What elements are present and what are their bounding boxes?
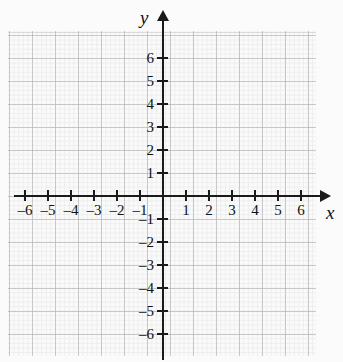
y-axis-tick-label: 4 <box>128 97 154 112</box>
y-axis-tick <box>157 287 168 289</box>
x-axis-tick <box>116 190 118 201</box>
x-axis-tick <box>300 190 302 201</box>
y-axis-tick <box>157 126 168 128</box>
x-axis-tick <box>208 190 210 201</box>
x-axis-tick <box>185 190 187 201</box>
y-axis-tick <box>157 310 168 312</box>
x-axis-tick-label: –5 <box>36 203 60 218</box>
x-axis-tick-label: –6 <box>13 203 37 218</box>
y-axis-tick <box>157 264 168 266</box>
coordinate-plane-figure: –6–5–4–3–2–1123456 654321–1–2–3–4–5–6 x … <box>0 0 343 362</box>
y-axis-tick-label: –6 <box>128 327 154 342</box>
x-axis-tick <box>70 190 72 201</box>
x-axis-tick <box>139 190 141 201</box>
x-axis-tick-label: –2 <box>105 203 129 218</box>
y-axis-tick-label: 1 <box>128 166 154 181</box>
x-axis-tick-label: 5 <box>266 203 290 218</box>
x-axis-tick <box>277 190 279 201</box>
y-axis-tick-label: 2 <box>128 143 154 158</box>
x-axis-tick-label: 2 <box>197 203 221 218</box>
y-axis-tick-label: –4 <box>128 281 154 296</box>
y-axis-tick <box>157 149 168 151</box>
y-axis-tick-label: 3 <box>128 120 154 135</box>
x-axis-tick <box>47 190 49 201</box>
x-axis-label: x <box>326 203 334 222</box>
x-axis-tick-label: –3 <box>82 203 106 218</box>
y-axis-tick <box>157 172 168 174</box>
y-axis-tick-label: 6 <box>128 51 154 66</box>
x-axis-tick-label: 4 <box>243 203 267 218</box>
x-axis-tick-label: –4 <box>59 203 83 218</box>
y-axis-tick-label: –3 <box>128 258 154 273</box>
y-axis-tick <box>157 218 168 220</box>
y-axis-line <box>162 20 164 360</box>
x-axis-tick <box>24 190 26 201</box>
y-axis-label: y <box>140 8 148 27</box>
y-axis-tick-label: –5 <box>128 304 154 319</box>
y-axis-tick <box>157 241 168 243</box>
y-axis-arrow-icon <box>157 10 169 21</box>
x-axis-line <box>14 195 322 197</box>
y-axis-tick <box>157 333 168 335</box>
x-axis-tick-label: 3 <box>220 203 244 218</box>
y-axis-tick <box>157 80 168 82</box>
x-axis-tick <box>231 190 233 201</box>
y-axis-tick-label: 5 <box>128 74 154 89</box>
y-axis-tick-label: –1 <box>128 212 154 227</box>
x-axis-arrow-icon <box>320 190 331 202</box>
x-axis-tick <box>254 190 256 201</box>
y-axis-tick-label: –2 <box>128 235 154 250</box>
x-axis-tick-label: 6 <box>289 203 313 218</box>
x-axis-tick <box>93 190 95 201</box>
y-axis-tick <box>157 57 168 59</box>
x-axis-tick-label: 1 <box>174 203 198 218</box>
y-axis-tick <box>157 103 168 105</box>
